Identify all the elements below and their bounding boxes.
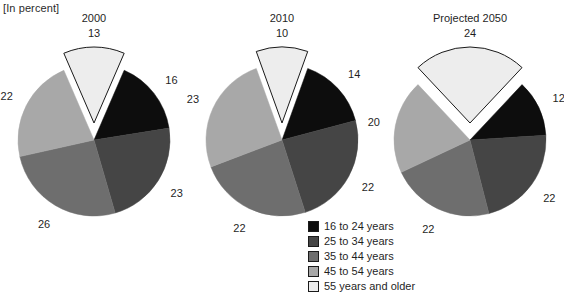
legend-item: 35 to 44 years <box>308 249 458 264</box>
slice-value-bottom-left: 22 <box>233 222 245 234</box>
legend-swatch-icon <box>308 266 319 277</box>
pie-chart-2000: 2000 13 16232622 <box>0 0 188 230</box>
slice-value-right-upper: 16 <box>165 74 177 86</box>
pie-chart-figure: [In percent] 2000 13 16232622 2010 10 14… <box>0 0 564 297</box>
legend-swatch-icon <box>308 236 319 247</box>
slice-value-left: 20 <box>368 116 380 128</box>
legend-item: 55 years and older <box>308 279 458 294</box>
legend-label: 45 to 54 years <box>324 266 394 277</box>
legend-item: 45 to 54 years <box>308 264 458 279</box>
legend-label: 35 to 44 years <box>324 251 394 262</box>
slice-value-right-upper: 12 <box>553 92 564 104</box>
legend-label: 55 years and older <box>324 281 415 292</box>
slice-value-right-lower: 22 <box>543 192 555 204</box>
slice-value-left: 22 <box>1 90 13 102</box>
pie-slices <box>376 0 564 230</box>
slice-value-bottom-left: 26 <box>38 218 50 230</box>
legend-item: 16 to 24 years <box>308 219 458 234</box>
legend-swatch-icon <box>308 221 319 232</box>
pie-chart-projected-2050: Projected 2050 24 12222220 <box>376 0 564 230</box>
legend-item: 25 to 34 years <box>308 234 458 249</box>
pie-chart-2010: 2010 10 14222223 <box>188 0 376 230</box>
slice-value-right-lower: 23 <box>171 187 183 199</box>
pie-slices <box>0 0 188 230</box>
legend-label: 16 to 24 years <box>324 221 394 232</box>
pie-slices <box>188 0 376 230</box>
slice-value-left: 23 <box>187 93 199 105</box>
legend-swatch-icon <box>308 281 319 292</box>
slice-value-right-lower: 22 <box>362 181 374 193</box>
legend: 16 to 24 years25 to 34 years35 to 44 yea… <box>308 219 458 294</box>
legend-swatch-icon <box>308 251 319 262</box>
legend-label: 25 to 34 years <box>324 236 394 247</box>
slice-value-right-upper: 14 <box>348 68 360 80</box>
